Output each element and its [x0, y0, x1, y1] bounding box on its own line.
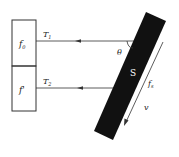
received-frequency-label: f' — [18, 85, 25, 95]
source-freq-label: fs — [147, 79, 154, 89]
ray-t1-arrow-icon — [75, 39, 81, 42]
source-frequency-label: f0 — [18, 39, 26, 50]
velocity-arrow-icon — [124, 119, 129, 127]
doppler-diagram: f0 f' T1 T2 S θ fs v — [0, 0, 179, 157]
source-box — [12, 20, 36, 66]
angle-label: θ — [117, 48, 122, 57]
ray-t2-label: T2 — [43, 77, 52, 87]
bar-label: S — [130, 68, 136, 78]
velocity-label: v — [144, 103, 149, 112]
ray-t1-label: T1 — [43, 30, 52, 40]
ray-t2-arrow-icon — [77, 86, 83, 89]
